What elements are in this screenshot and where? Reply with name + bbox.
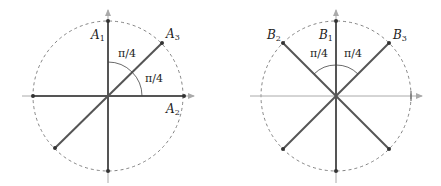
point-a3	[160, 41, 164, 45]
point-top	[334, 19, 338, 23]
point-lower-left	[281, 147, 285, 151]
point-right	[182, 94, 186, 98]
point-lower-left	[53, 146, 57, 150]
label-b3: B3	[393, 29, 407, 43]
angle-label-upper: π/4	[118, 48, 136, 59]
label-a3: A3	[166, 28, 180, 42]
label-b2: B2	[267, 29, 281, 43]
point-lower-right	[387, 147, 391, 151]
angle-label-right: π/4	[344, 48, 362, 59]
label-b1: B1	[319, 29, 333, 43]
angle-arc-b1-b3	[336, 65, 358, 74]
point-b3	[387, 41, 391, 45]
point-top	[106, 19, 110, 23]
angle-label-lower: π/4	[145, 73, 163, 84]
angle-arc-a1-a3	[108, 62, 132, 72]
point-bottom	[106, 169, 110, 173]
label-a2: A2	[166, 103, 180, 117]
point-b2	[281, 41, 285, 45]
point-bottom	[334, 169, 338, 173]
angle-arc-b2-b1	[314, 65, 336, 74]
label-a1: A1	[91, 29, 105, 43]
angle-arc-a3-a2	[132, 72, 142, 96]
point-left	[31, 94, 35, 98]
angle-label-left: π/4	[310, 48, 328, 59]
diagram-canvas	[0, 0, 441, 186]
